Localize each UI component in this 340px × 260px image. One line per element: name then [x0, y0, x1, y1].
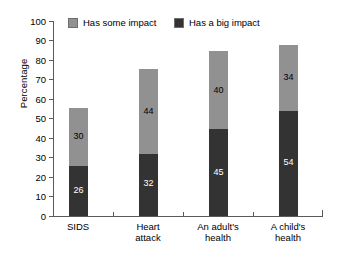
y-tick-60 — [49, 99, 53, 100]
bar-label-some-impact: 40 — [209, 86, 228, 95]
legend-swatch-some-impact-icon — [68, 18, 78, 28]
y-tick-10 — [49, 196, 53, 197]
y-tick-90 — [49, 40, 53, 41]
bar-label-some-impact: 44 — [139, 107, 158, 116]
y-tick-label-40: 40 — [20, 134, 46, 144]
stacked-bar-chart: Percentage 100 90 80 70 60 50 40 30 20 1… — [0, 0, 340, 260]
x-tick-1 — [113, 212, 114, 217]
y-tick-0 — [49, 216, 53, 217]
bar-label-some-impact: 34 — [279, 73, 298, 82]
bar-label-big-impact: 32 — [139, 179, 158, 188]
y-tick-label-90: 90 — [20, 36, 46, 46]
y-tick-70 — [49, 79, 53, 80]
legend-swatch-big-impact-icon — [174, 18, 184, 28]
y-tick-80 — [49, 60, 53, 61]
y-tick-label-80: 80 — [20, 56, 46, 66]
x-category-label-a-childs-health: A child's health — [242, 221, 334, 243]
y-tick-label-60: 60 — [20, 95, 46, 105]
y-tick-label-10: 10 — [20, 192, 46, 202]
y-tick-50 — [49, 118, 53, 119]
y-tick-40 — [49, 138, 53, 139]
y-tick-100 — [49, 21, 53, 22]
y-tick-20 — [49, 177, 53, 178]
x-axis-end-tick — [322, 210, 323, 217]
bar-label-big-impact: 54 — [279, 158, 298, 167]
legend-label-big-impact: Has a big impact — [189, 17, 260, 29]
bar-label-big-impact: 45 — [209, 168, 228, 177]
x-category-line-2: health — [242, 232, 334, 243]
y-tick-label-100: 100 — [20, 17, 46, 27]
y-tick-label-20: 20 — [20, 173, 46, 183]
y-tick-label-50: 50 — [20, 114, 46, 124]
legend-label-some-impact: Has some impact — [83, 17, 156, 29]
y-axis-line — [53, 21, 54, 217]
x-tick-3 — [253, 212, 254, 217]
y-tick-label-70: 70 — [20, 75, 46, 85]
y-tick-30 — [49, 157, 53, 158]
x-category-line-1: A child's — [242, 221, 334, 232]
bar-label-big-impact: 26 — [69, 186, 88, 195]
y-tick-label-30: 30 — [20, 153, 46, 163]
bar-label-some-impact: 30 — [69, 132, 88, 141]
x-tick-2 — [183, 212, 184, 217]
